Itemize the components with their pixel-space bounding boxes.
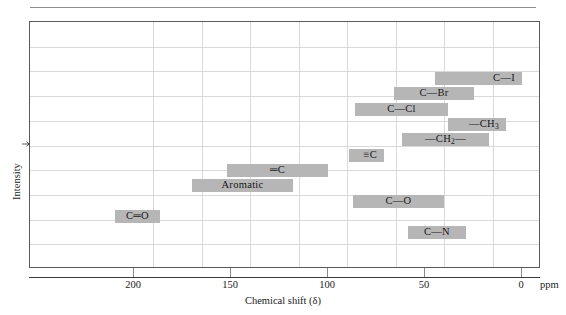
x-axis-unit-label: ppm [540,279,559,290]
plot-area: C—IC—BrC—Cl—CH3—CH2—≡C═CAromaticC—OC═OC—… [29,21,540,268]
vertical-gridline [299,22,300,267]
x-axis-title: Chemical shift (δ) [0,295,566,306]
horizontal-gridline [30,220,539,221]
vertical-gridline [153,22,154,267]
horizontal-gridline [30,195,539,196]
x-axis-tick-label: 0 [518,279,523,290]
shift-range-label: ═C [268,165,287,176]
shift-range-label: C—Br [417,88,450,99]
shift-range-bar: —CH3 [448,118,506,131]
shift-range-bar: C—O [353,195,444,208]
vertical-gridline [396,22,397,267]
x-axis-tick-mark [230,268,231,277]
shift-range-label: C—Cl [385,104,418,115]
horizontal-gridline [30,146,539,147]
x-axis-line [29,277,540,278]
vertical-gridline [347,22,348,267]
vertical-gridline [250,22,251,267]
shift-range-label: C—O [384,196,414,207]
x-axis-tick-label: 50 [419,279,430,290]
shift-range-label: ≡C [361,150,379,161]
vertical-gridline [202,22,203,267]
shift-range-bar: ≡C [349,149,384,162]
x-axis-tick-mark [521,268,522,277]
shift-range-bar: C—Cl [355,103,448,116]
shift-range-label: Aromatic [219,180,265,191]
shift-range-bar: C—N [408,226,466,239]
shift-range-bar: C═O [115,210,160,223]
shift-range-bar: Aromatic [192,179,293,192]
horizontal-gridline [30,47,539,48]
shift-range-label: —CH2— [423,134,468,145]
horizontal-gridline [30,244,539,245]
x-axis-tick-label: 150 [222,279,238,290]
y-axis-title: Intensity [11,142,22,222]
x-axis-tick-label: 200 [125,279,141,290]
x-axis-tick-mark [133,268,134,277]
vertical-gridline [493,22,494,267]
shift-range-label: —CH3 [467,119,501,130]
nmr-chemical-shift-chart: C—IC—BrC—Cl—CH3—CH2—≡C═CAromaticC—OC═OC—… [0,0,566,315]
x-axis-tick-mark [424,268,425,277]
shift-range-label: C—I [491,73,517,84]
shift-range-label: C═O [124,211,151,222]
shift-range-bar: C—I [435,72,522,85]
arrow-right-icon [22,140,30,148]
x-axis-tick-mark [327,268,328,277]
shift-range-bar: —CH2— [402,133,489,146]
x-axis-tick-label: 100 [319,279,335,290]
shift-range-bar: ═C [227,164,328,177]
shift-range-bar: C—Br [394,87,474,100]
shift-range-label: C—N [422,227,452,238]
